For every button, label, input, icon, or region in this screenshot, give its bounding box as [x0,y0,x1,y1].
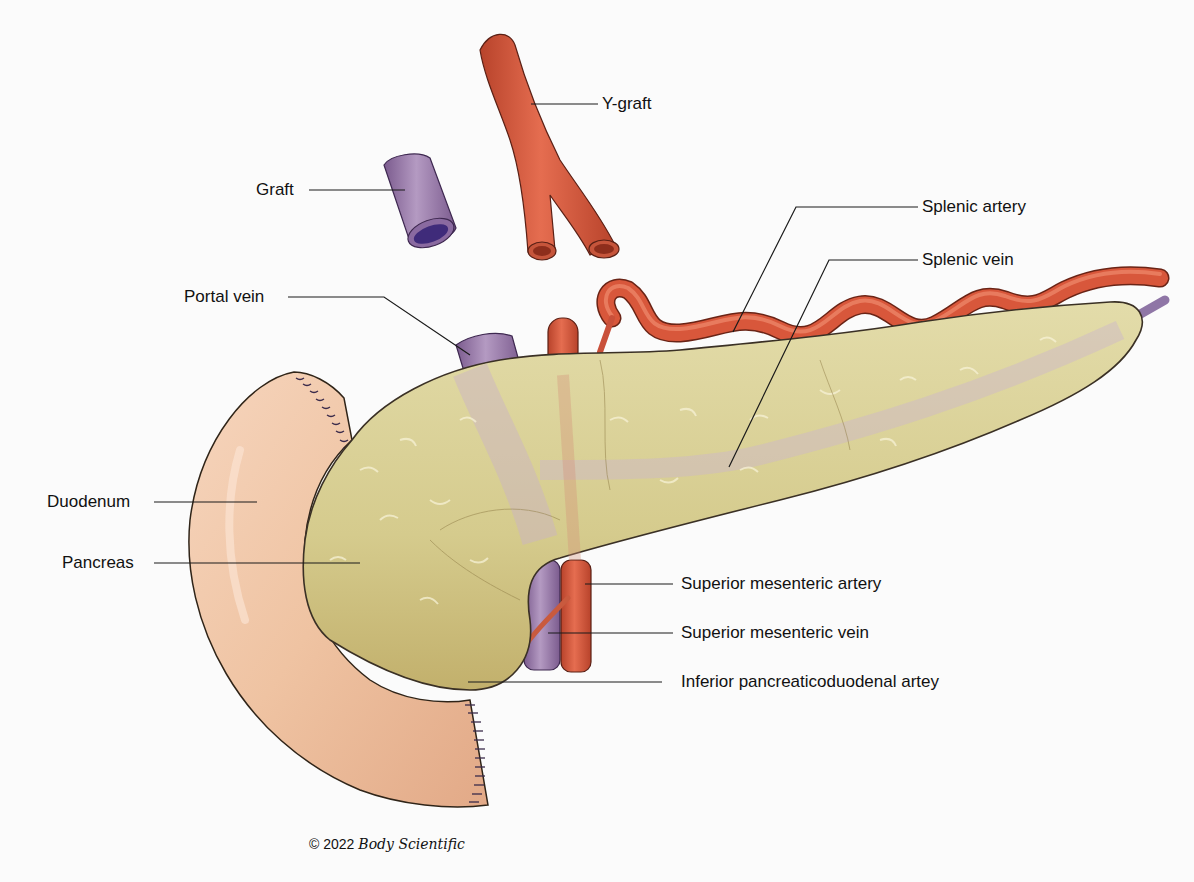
label-portal-vein: Portal vein [184,287,264,307]
label-splenic-vein: Splenic vein [922,250,1014,270]
label-duodenum: Duodenum [47,492,130,512]
label-splenic-artery: Splenic artery [922,197,1026,217]
pancreas-transplant-figure: Y-graft Graft Splenic artery Splenic vei… [0,0,1194,882]
label-y-graft: Y-graft [602,94,651,114]
brand-name: Body Scientific [358,836,465,852]
label-pancreas: Pancreas [62,553,134,573]
graft-vessel [384,154,458,253]
label-inferior-pancreaticoduodenal-artery: Inferior pancreaticoduodenal artey [681,672,939,692]
copyright-year: © 2022 [309,836,354,852]
label-superior-mesenteric-vein: Superior mesenteric vein [681,623,869,643]
illustration-canvas [0,0,1194,882]
y-graft-vessel [480,34,619,260]
label-superior-mesenteric-artery: Superior mesenteric artery [681,574,881,594]
label-graft: Graft [256,180,294,200]
copyright-credit: © 2022Body Scientific [309,836,465,852]
leader-portal-vein [288,297,470,355]
